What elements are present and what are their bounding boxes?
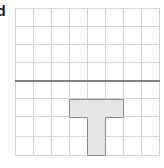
grid-diagram: [0, 0, 164, 168]
t-shape: [70, 100, 124, 156]
